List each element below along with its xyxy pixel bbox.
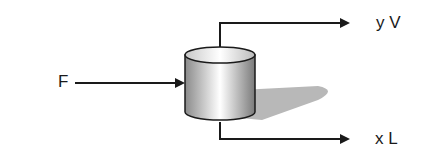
vapor-outlet-arrow — [220, 23, 348, 48]
feed-label: F — [58, 73, 68, 90]
flash-vessel — [185, 47, 255, 120]
vapor-outlet-label: y V — [376, 14, 401, 31]
liquid-outlet-label: x L — [375, 130, 398, 147]
liquid-outlet-arrow — [220, 122, 348, 139]
